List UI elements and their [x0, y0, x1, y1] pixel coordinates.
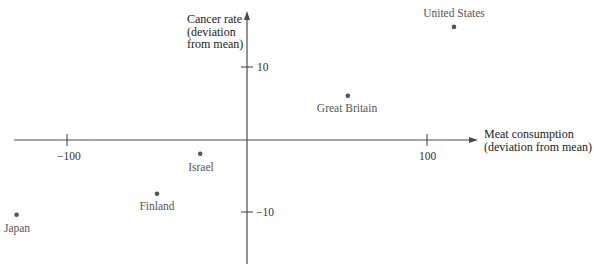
y-axis-title-line-1: Cancer rate [187, 13, 243, 26]
y-tick-label-10: 10 [257, 61, 269, 74]
data-point-japan [14, 212, 19, 217]
x-axis-arrow-icon [469, 137, 478, 143]
y-axis-title-line-3: from mean) [187, 38, 243, 51]
data-point-finland [155, 191, 160, 196]
x-axis-title-line-2: (deviation from mean) [484, 141, 592, 154]
y-axis-arrow-icon [244, 11, 250, 20]
x-axis-title: Meat consumption (deviation from mean) [484, 128, 592, 153]
y-tick-label-neg10: −10 [256, 206, 274, 219]
data-point-united-states [452, 25, 457, 30]
point-label-finland: Finland [139, 200, 174, 213]
x-tick-label-neg100: −100 [57, 150, 81, 163]
point-label-great-britain: Great Britain [317, 102, 377, 115]
y-axis-title: Cancer rate (deviation from mean) [187, 13, 243, 51]
x-tick-label-100: 100 [419, 150, 436, 163]
data-point-great-britain [346, 94, 351, 99]
point-label-united-states: United States [423, 7, 485, 20]
point-label-japan: Japan [4, 222, 30, 235]
data-point-israel [198, 152, 203, 157]
x-axis-title-line-1: Meat consumption [484, 128, 592, 141]
data-points [14, 25, 456, 217]
point-label-israel: Israel [188, 161, 214, 174]
